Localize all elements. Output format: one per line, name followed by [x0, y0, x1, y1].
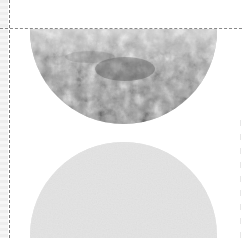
foliage-texture-icon — [30, 29, 217, 124]
foliage-half-circle-image — [30, 29, 217, 124]
right-edge-line — [240, 120, 241, 238]
circle-texture-icon — [30, 142, 217, 238]
gray-circle — [30, 142, 217, 238]
vertical-dashed-guide — [9, 0, 10, 238]
left-edge-strip — [0, 0, 8, 238]
